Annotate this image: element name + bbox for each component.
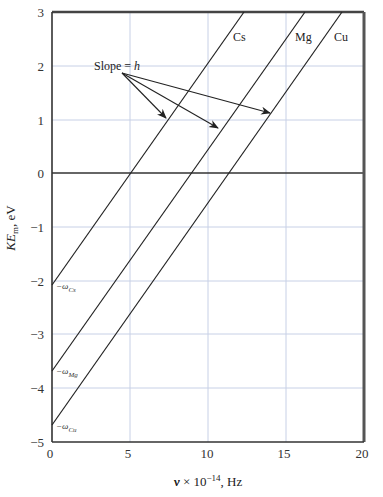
svg-text:2: 2 — [38, 59, 45, 74]
svg-text:20: 20 — [356, 446, 369, 461]
y-axis-label: KEm, eV — [3, 205, 20, 252]
series-lines — [52, 12, 342, 425]
svg-text:3: 3 — [38, 5, 45, 20]
chart-canvas: Cs Mg Cu Slope = h −ωCs −ωMg −ωCu 3 2 1 … — [0, 0, 383, 497]
line-cs — [52, 12, 244, 285]
svg-text:0: 0 — [38, 166, 45, 181]
y-tick-labels: 3 2 1 0 −1 −2 −3 −4 −5 — [30, 5, 44, 450]
omega-cs-label: −ωCs — [56, 281, 76, 294]
svg-text:−1: −1 — [30, 220, 44, 235]
svg-text:−4: −4 — [30, 381, 44, 396]
svg-text:1: 1 — [38, 113, 45, 128]
omega-cu-label: −ωCu — [56, 421, 77, 434]
label-cu: Cu — [334, 30, 348, 44]
svg-text:5: 5 — [125, 446, 132, 461]
grid — [52, 12, 364, 442]
slope-annotation: Slope = h — [94, 59, 140, 73]
line-cu — [52, 12, 342, 425]
svg-text:10: 10 — [201, 446, 214, 461]
svg-text:0: 0 — [47, 446, 54, 461]
svg-text:−3: −3 — [30, 327, 44, 342]
label-mg: Mg — [295, 30, 312, 44]
x-axis-label: νν × 10−14, Hz — [174, 473, 243, 489]
omega-mg-label: −ωMg — [56, 366, 78, 379]
svg-text:−5: −5 — [30, 435, 44, 450]
x-tick-labels: 0 5 10 15 20 — [47, 446, 369, 461]
label-cs: Cs — [233, 30, 246, 44]
svg-text:−2: −2 — [30, 274, 44, 289]
svg-text:15: 15 — [278, 446, 291, 461]
